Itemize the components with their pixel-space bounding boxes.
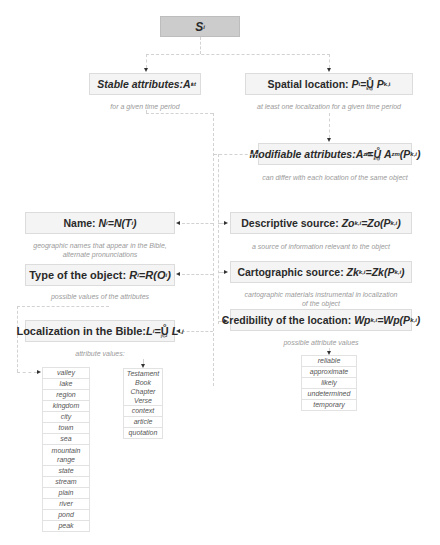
name-box: Name: Ni=N(Ti) [25, 212, 175, 234]
type-label: Type of the object: [29, 269, 126, 281]
cartographic-rest: =Zk(P [366, 266, 395, 278]
name-note: geographic names that appear in the Bibl… [25, 241, 175, 259]
stable-sub: i [191, 81, 193, 87]
spatial-lhs: P [351, 78, 358, 90]
credibility-label: Credibility of the location: [222, 314, 352, 326]
bible-value: quotation [124, 428, 162, 438]
connector-modifiable-trunk [214, 154, 215, 354]
stable-label: Stable attributes: [97, 78, 183, 90]
type-close: ) [167, 269, 171, 281]
arrow-left-icon [176, 272, 180, 276]
cartographic-note: cartographic materials instrumental in l… [230, 290, 412, 308]
type-value: kingdom [43, 401, 89, 412]
credibility-formula: Wp [354, 314, 370, 326]
credibility-value: undetermined [302, 389, 356, 400]
cartographic-note-line: of the object [230, 299, 412, 308]
localization-label: Localization in the Bible: [16, 325, 146, 337]
bible-value: article [124, 417, 162, 428]
credibility-close: ) [417, 314, 421, 326]
type-values-list: valley lake region kingdom city town sea… [42, 367, 90, 532]
credibility-rest: =Wp(P [377, 314, 410, 326]
credibility-sub: k,i [370, 317, 377, 323]
credibility-rest-sub: k,i [410, 317, 417, 323]
type-value: peak [43, 521, 89, 531]
type-value: sea [43, 434, 89, 445]
descriptive-sub: k,i [354, 220, 361, 226]
modifiable-rhs-close: ) [417, 148, 421, 160]
cartographic-sub: k,i [359, 269, 366, 275]
union-symbol: Ůk∈I [366, 78, 374, 90]
name-label: Name: [63, 217, 95, 229]
modifiable-rhs-arg: (P [400, 148, 411, 160]
connector-type-values [17, 372, 37, 373]
stable-note: for a given time period [89, 102, 201, 111]
arrow-left-icon [176, 221, 180, 225]
modifiable-note: can differ with each location of the sam… [258, 173, 412, 182]
root-label: S [195, 20, 203, 34]
bible-value: context [124, 406, 162, 417]
name-note-line: geographic names that appear in the Bibl… [25, 241, 175, 250]
cartographic-note-line: cartographic materials instrumental in l… [230, 290, 412, 299]
root-entity-box: Si [160, 16, 240, 37]
arrow-down-icon [327, 138, 331, 142]
credibility-value: approximate [302, 367, 356, 378]
cartographic-formula: Zk [347, 266, 359, 278]
spatial-location-box: Spatial location: Pi = Ůk∈I Pk,i [245, 73, 413, 95]
type-value: stream [43, 477, 89, 488]
arrow-right-icon [224, 221, 228, 225]
name-rest: =N(T [108, 217, 132, 229]
descriptive-formula: Zo [342, 217, 355, 229]
type-rest: =R(O [139, 269, 166, 281]
connector-type-values-trunk [17, 306, 18, 372]
spatial-rhs: P [377, 78, 384, 90]
localization-rhs-sub: i,j [179, 328, 184, 334]
type-box: Type of the object: Ri=R(Oi) [25, 264, 175, 286]
name-formula: N [98, 217, 106, 229]
connector-stable-top [146, 113, 213, 114]
localization-rhs: L [172, 325, 179, 337]
arrow-down-icon [144, 68, 148, 72]
arrow-right-icon [37, 370, 41, 374]
credibility-values-list: reliable approximate likely undetermined… [301, 355, 357, 411]
connector-root-split [146, 54, 330, 55]
type-value: town [43, 423, 89, 434]
connector-modifiable-trunk2 [218, 154, 219, 324]
connector-type [182, 274, 213, 275]
modifiable-rhs-sup: zm [392, 151, 400, 157]
connector-localization [182, 331, 213, 332]
connector-stable [146, 54, 147, 68]
spatial-note: at least one localization for a given ti… [245, 102, 413, 111]
connector-root [200, 37, 201, 54]
connector-spatial-down [329, 113, 330, 138]
bible-value: Chapter [124, 387, 162, 396]
connector-stable-short [146, 110, 147, 113]
union-symbol: Ůj∈J [161, 325, 169, 337]
localization-formula: L [146, 325, 153, 337]
stable-attributes-box: Stable attributes: Asti [89, 73, 201, 95]
descriptive-rest: =Zo(P [361, 217, 390, 229]
descriptive-note: a source of information relevant to the … [230, 242, 412, 251]
connector-modifiable-left [214, 154, 258, 155]
connector-type-values-top [17, 306, 109, 307]
descriptive-close: ) [397, 217, 401, 229]
spatial-rhs-sub: k,i [384, 81, 391, 87]
credibility-value: likely [302, 378, 356, 389]
name-close: ) [133, 217, 137, 229]
union-index: j∈J [161, 333, 167, 338]
type-formula: R [129, 269, 137, 281]
type-value: region [43, 390, 89, 401]
bible-values-list: Testament Book Chapter Verse context art… [123, 368, 163, 439]
connector-spatial [329, 54, 330, 68]
union-index: k∈I [373, 156, 379, 161]
localization-box: Localization in the Bible: Li=Ůj∈J Li,j [25, 320, 175, 342]
descriptive-label: Descriptive source: [241, 217, 338, 229]
type-note: possible values of the attributes [25, 292, 175, 301]
credibility-note: possible attribute values [230, 338, 412, 347]
credibility-box: Credibility of the location: Wpk,i=Wp(Pk… [230, 309, 412, 331]
stable-symbol: A [183, 78, 191, 90]
cartographic-close: ) [401, 266, 405, 278]
modifiable-attributes-box: Modifiable attributes: Azmi = Ůk∈I Azm(P… [258, 143, 412, 165]
modifiable-label: Modifiable attributes: [249, 148, 355, 160]
root-sub: i [203, 24, 205, 30]
arrow-down-icon [327, 68, 331, 72]
